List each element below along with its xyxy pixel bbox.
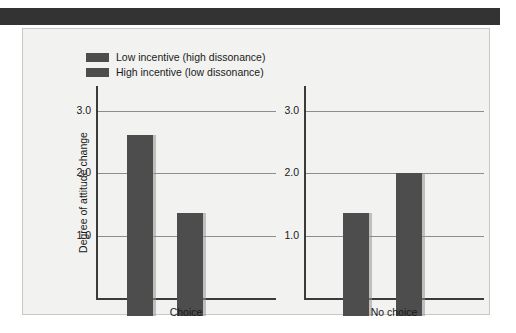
plot-panel-no-choice: 3.0 2.0 1.0 No choice [304, 86, 484, 316]
y-tick-1: 1.0 [265, 229, 299, 241]
gridline-3 [96, 111, 276, 112]
y-axis-title: Degree of attitude change [76, 86, 90, 299]
y-tick-1: 1.0 [57, 229, 91, 241]
bar-no-choice-high-incentive [396, 173, 422, 316]
x-axis-line [304, 298, 484, 300]
legend-label-low-incentive: Low incentive (high dissonance) [116, 51, 265, 64]
legend-item: High incentive (low dissonance) [86, 66, 265, 79]
y-axis-line [96, 86, 98, 299]
legend-swatch-high-incentive [86, 68, 109, 77]
legend-item: Low incentive (high dissonance) [86, 51, 265, 64]
gridline-2 [96, 173, 276, 174]
chart-panel: Low incentive (high dissonance) High inc… [22, 28, 490, 315]
plot-panel-choice: Degree of attitude change 3.0 2.0 1.0 Ch… [96, 86, 276, 316]
bar-choice-low-incentive [127, 135, 153, 316]
y-tick-3: 3.0 [265, 104, 299, 116]
y-tick-2: 2.0 [265, 166, 299, 178]
header-bar [0, 8, 500, 25]
figure-container: Low incentive (high dissonance) High inc… [0, 0, 516, 333]
x-category-label-choice: Choice [96, 306, 276, 318]
chart-legend: Low incentive (high dissonance) High inc… [86, 51, 265, 81]
y-axis-line [304, 86, 306, 299]
bar-no-choice-low-incentive [343, 213, 369, 316]
bar-choice-high-incentive [177, 213, 203, 316]
gridline-3 [304, 111, 484, 112]
legend-swatch-low-incentive [86, 53, 109, 62]
gridline-1 [304, 236, 484, 237]
y-tick-2: 2.0 [57, 166, 91, 178]
legend-label-high-incentive: High incentive (low dissonance) [116, 66, 264, 79]
y-tick-3: 3.0 [57, 104, 91, 116]
x-category-label-no-choice: No choice [304, 306, 484, 318]
gridline-2 [304, 173, 484, 174]
